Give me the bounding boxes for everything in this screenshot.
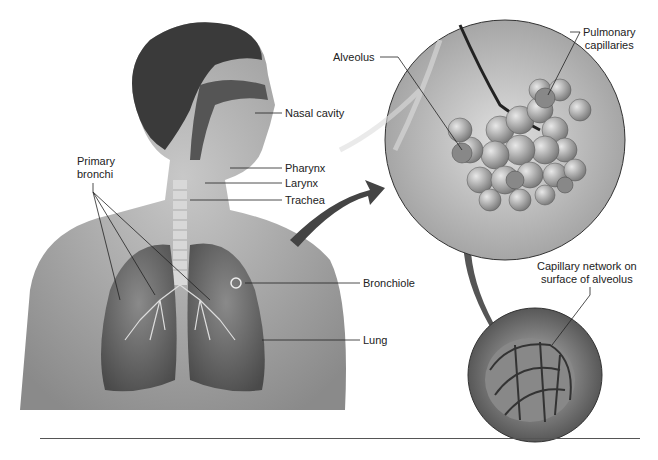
label-bronchiole: Bronchiole <box>363 277 415 290</box>
label-lung: Lung <box>363 334 387 347</box>
label-primary-bronchi: Primary bronchi <box>77 155 115 181</box>
respiratory-illustration <box>0 0 658 460</box>
torso <box>20 22 346 410</box>
arrow-to-alveoli <box>290 180 385 247</box>
label-pharynx: Pharynx <box>285 162 325 175</box>
label-capillary-network: Capillary network on surface of alveolus <box>537 260 637 286</box>
alveoli-magnified <box>340 20 625 260</box>
capillary-network-magnified <box>468 308 602 442</box>
label-pulmonary-capillaries: Pulmonary capillaries <box>583 26 636 52</box>
label-trachea: Trachea <box>285 194 325 207</box>
label-larynx: Larynx <box>285 177 318 190</box>
label-nasal-cavity: Nasal cavity <box>285 107 344 120</box>
bottom-rule <box>40 438 640 439</box>
label-alveolus: Alveolus <box>333 51 375 64</box>
